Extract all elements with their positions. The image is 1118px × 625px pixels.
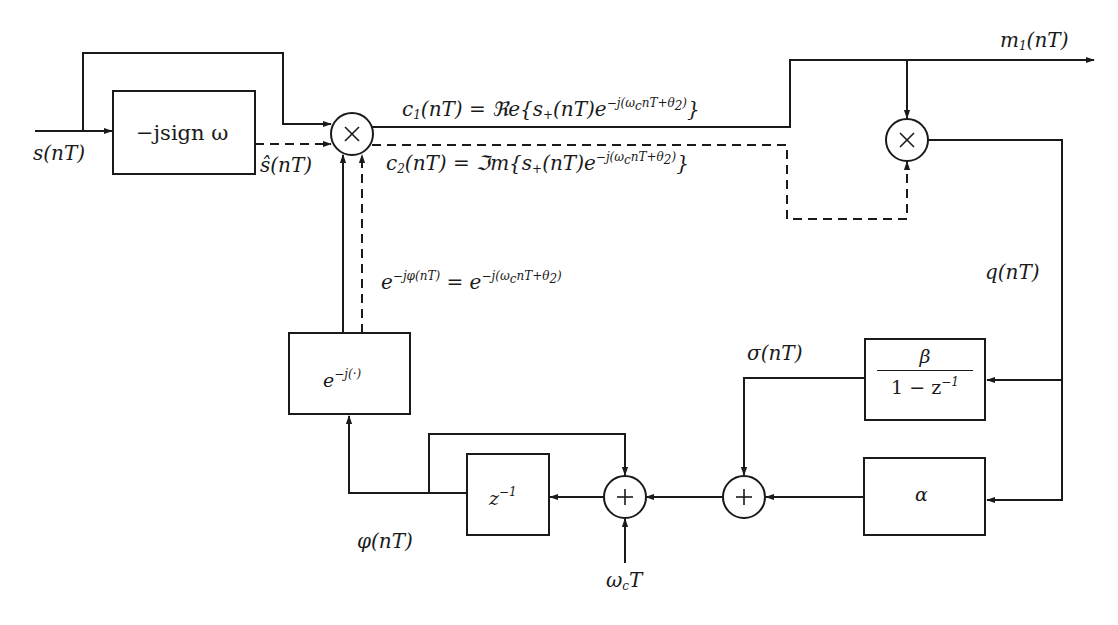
beta-block-label: β 1 − z−1 [865,345,985,398]
phi-line [349,416,467,493]
q-line [928,140,1062,500]
c2-equation: c2(nT) = ℑm{s+(nT)e−j(ωcnT+θ2)} [386,151,689,175]
diagram-canvas [0,0,1118,625]
sigma-line [744,378,865,475]
alpha-block-label: α [915,485,928,504]
input-signal-label: s(nT) [33,143,85,163]
delay-block-label: z−1 [489,486,517,508]
hilbert-block-label: −jsign ω [136,123,228,144]
c1-equation: c1(nT) = ℜe{s+(nT)e−j(ωcnT+θ2)} [402,97,700,121]
wct-label: ωcT [606,570,642,592]
error-signal-label: q(nT) [985,262,1040,282]
phase-signal-label: φ(nT) [357,531,413,551]
hilbert-output-label: ŝ(nT) [260,155,312,175]
nco-equation: e−jφ(nT) = e−j(ωcnT+θ2) [381,270,562,292]
output-signal-label: m1(nT) [1000,30,1068,52]
exp-block-label: e−j(·) [323,368,361,390]
sigma-signal-label: σ(nT) [747,343,802,363]
phi-feedback [429,434,625,493]
